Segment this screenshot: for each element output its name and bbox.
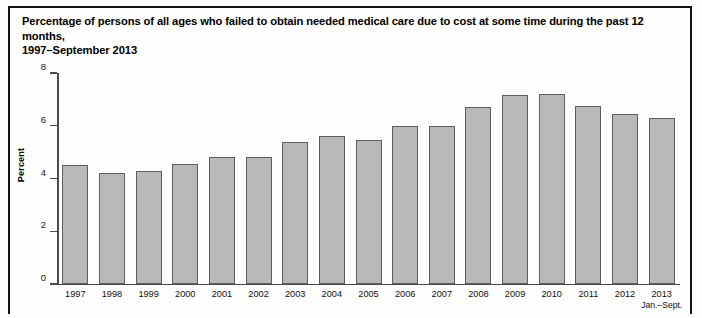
bar (429, 126, 455, 284)
x-axis-tick-label: 2010 (532, 289, 572, 299)
x-axis-tick-label: 1997 (55, 289, 95, 299)
plot-area: Percent 02468199719981999200020012002200… (0, 0, 702, 318)
y-axis-tick-label: 4 (28, 167, 46, 178)
x-axis-tick-label: 2002 (239, 289, 279, 299)
bar (539, 94, 565, 284)
bar (575, 106, 601, 284)
x-axis-tick-label: 2007 (422, 289, 462, 299)
x-axis-tick-label: 2008 (458, 289, 498, 299)
x-axis-tick-label: 2006 (385, 289, 425, 299)
x-axis-tick-label: 2012 (605, 289, 645, 299)
bar (209, 157, 235, 284)
y-axis-tick-label: 8 (28, 61, 46, 72)
bar (649, 118, 675, 284)
bar (356, 140, 382, 284)
y-axis-tick-label: 0 (28, 272, 46, 283)
bar (319, 136, 345, 284)
y-axis-tick-label: 6 (28, 114, 46, 125)
y-axis-tick (50, 178, 57, 179)
y-axis-tick (50, 125, 57, 126)
bar (282, 142, 308, 284)
y-axis-tick (50, 283, 57, 284)
y-axis-line (57, 73, 59, 285)
x-axis-tick-label: 2004 (312, 289, 352, 299)
y-axis-tick (50, 231, 57, 232)
bar (465, 107, 491, 284)
bar (502, 95, 528, 284)
y-axis-tick (50, 72, 57, 73)
bar (246, 157, 272, 284)
x-axis-tick-label: 2005 (349, 289, 389, 299)
x-axis-tick-label: 2003 (275, 289, 315, 299)
x-axis-tick-sublabel: Jan.–Sept. (636, 300, 688, 310)
x-axis-line (57, 284, 680, 285)
bar (172, 164, 198, 284)
bar (136, 171, 162, 284)
y-axis-title: Percent (16, 135, 26, 195)
x-axis-tick-label: 2001 (202, 289, 242, 299)
x-axis-tick-label: 2000 (165, 289, 205, 299)
x-axis-tick-label: 2011 (568, 289, 608, 299)
bar (62, 165, 88, 284)
bar (392, 126, 418, 284)
x-axis-tick-label: 2009 (495, 289, 535, 299)
bar (99, 173, 125, 284)
figure-container: Percentage of persons of all ages who fa… (0, 0, 702, 318)
x-axis-tick-label: 2013 (642, 289, 682, 299)
y-axis-tick-label: 2 (28, 219, 46, 230)
x-axis-tick-label: 1999 (129, 289, 169, 299)
bar (612, 114, 638, 284)
x-axis-tick-label: 1998 (92, 289, 132, 299)
